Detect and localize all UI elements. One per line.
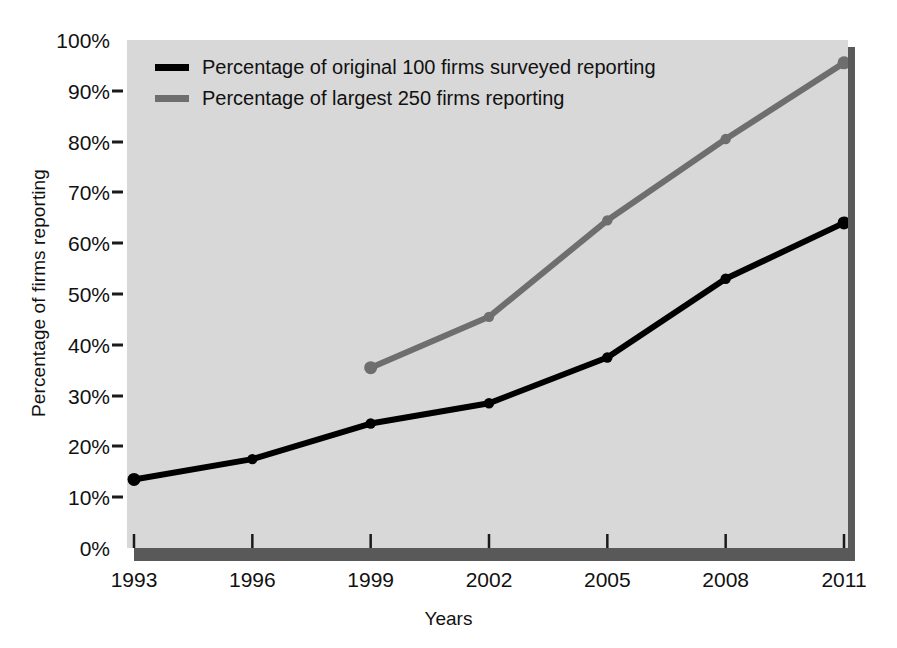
y-tick-label: 40% bbox=[36, 334, 110, 355]
x-tick-label: 1999 bbox=[316, 568, 426, 592]
y-tick-mark bbox=[112, 445, 123, 448]
y-tick-label: 70% bbox=[36, 182, 110, 203]
y-tick-mark bbox=[112, 293, 123, 296]
legend-label: Percentage of largest 250 firms reportin… bbox=[202, 87, 564, 110]
y-tick-mark bbox=[112, 89, 123, 92]
y-tick-label: 90% bbox=[36, 80, 110, 101]
y-tick-mark bbox=[112, 140, 123, 143]
y-tick-label: 10% bbox=[36, 487, 110, 508]
data-point bbox=[365, 418, 375, 428]
data-point bbox=[720, 134, 730, 144]
chart-legend: Percentage of original 100 firms surveye… bbox=[155, 52, 656, 114]
y-tick-label: 50% bbox=[36, 284, 110, 305]
legend-item: Percentage of largest 250 firms reportin… bbox=[155, 83, 656, 114]
plot-area: Percentage of original 100 firms surveye… bbox=[127, 40, 848, 548]
data-point bbox=[484, 398, 494, 408]
legend-swatch-icon bbox=[155, 95, 189, 102]
data-point bbox=[720, 274, 730, 284]
series-line-1 bbox=[134, 223, 844, 480]
y-tick-mark bbox=[112, 343, 123, 346]
x-tick-label: 2008 bbox=[671, 568, 781, 592]
x-tick-label: 1996 bbox=[197, 568, 307, 592]
y-tick-label: 20% bbox=[36, 436, 110, 457]
plot-lines bbox=[127, 40, 848, 548]
y-tick-label: 30% bbox=[36, 385, 110, 406]
y-tick-label: 100% bbox=[36, 30, 110, 51]
legend-label: Percentage of original 100 firms surveye… bbox=[202, 56, 656, 79]
legend-item: Percentage of original 100 firms surveye… bbox=[155, 52, 656, 83]
x-axis-title: Years bbox=[0, 608, 897, 630]
y-tick-label: 80% bbox=[36, 131, 110, 152]
x-tick-label: 2011 bbox=[789, 568, 897, 592]
data-point bbox=[602, 215, 612, 225]
data-point bbox=[602, 352, 612, 362]
data-point bbox=[484, 312, 494, 322]
data-point bbox=[247, 454, 257, 464]
data-point bbox=[128, 473, 141, 486]
y-tick-label: 0% bbox=[36, 538, 110, 559]
x-tick-label: 2002 bbox=[434, 568, 544, 592]
legend-swatch-icon bbox=[155, 64, 189, 71]
y-tick-label: 60% bbox=[36, 233, 110, 254]
chart-figure: Percentage of firms reporting 100%90%80%… bbox=[0, 0, 897, 648]
y-tick-mark bbox=[112, 242, 123, 245]
x-tick-label: 2005 bbox=[552, 568, 662, 592]
x-tick-label: 1993 bbox=[79, 568, 189, 592]
data-point bbox=[364, 361, 377, 374]
y-tick-mark bbox=[112, 496, 123, 499]
y-tick-mark bbox=[112, 394, 123, 397]
y-tick-mark bbox=[112, 191, 123, 194]
